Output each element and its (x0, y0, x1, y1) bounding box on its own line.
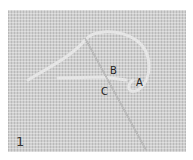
step-number: 1 (16, 135, 24, 148)
stitch-illustration (8, 10, 186, 152)
thread-stitch (58, 77, 126, 80)
thread (28, 32, 149, 92)
label-a: A (136, 78, 143, 88)
label-b: B (110, 66, 117, 76)
embroidery-photo: B A C 1 (8, 10, 186, 152)
label-c: C (101, 87, 108, 97)
